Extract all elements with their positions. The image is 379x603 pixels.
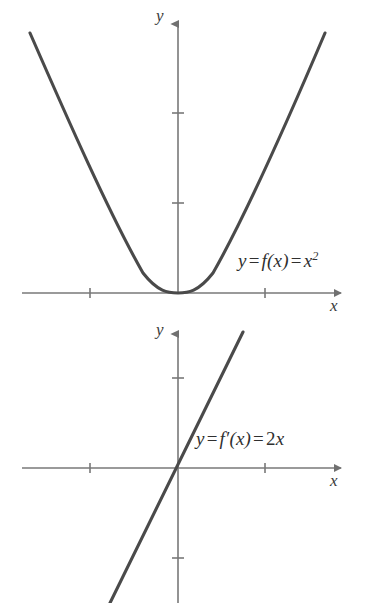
- figure-canvas: [0, 0, 379, 603]
- function-eq-equals-2: =: [289, 250, 304, 271]
- function-plot-x-axis-label: x: [330, 296, 338, 316]
- derivative-eq-equals-2: =: [251, 428, 266, 449]
- function-eq-fn: f(x): [262, 250, 289, 271]
- derivative-eq-coefficient: 2: [266, 428, 276, 449]
- derivative-eq-variable: x: [276, 428, 285, 449]
- function-eq-base: x: [304, 250, 313, 271]
- derivative-plot-y-axis-label: y: [156, 320, 164, 340]
- derivative-plot-x-axis-label: x: [330, 471, 338, 491]
- function-eq-lhs: y: [238, 250, 247, 271]
- derivative-equation-label: y=f′(x)=2x: [196, 428, 284, 450]
- calculus-figure: y x y x y=f(x)=x2 y=f′(x)=2x: [0, 0, 379, 603]
- derivative-plot-axes: [22, 334, 341, 603]
- function-plot-y-axis-label: y: [156, 6, 164, 26]
- derivative-eq-equals-1: =: [205, 428, 220, 449]
- function-eq-equals-1: =: [247, 250, 262, 271]
- derivative-eq-lhs: y: [196, 428, 205, 449]
- derivative-eq-fn: f′(x): [220, 428, 252, 449]
- function-eq-exponent: 2: [312, 249, 318, 263]
- function-equation-label: y=f(x)=x2: [238, 250, 319, 272]
